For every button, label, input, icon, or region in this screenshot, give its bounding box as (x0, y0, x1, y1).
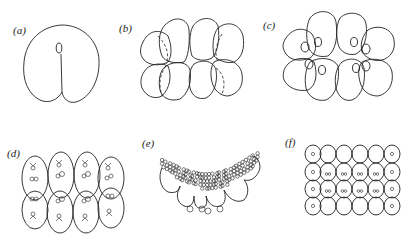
cell (320, 180, 336, 198)
nucleus (360, 190, 363, 193)
small-cell (239, 173, 242, 176)
panel-f-drawing (305, 145, 400, 215)
nucleus (357, 190, 360, 193)
small-cell (206, 183, 209, 186)
small-cell (236, 175, 239, 178)
small-cell (209, 183, 212, 186)
small-cell (256, 152, 259, 155)
small-cell (164, 160, 167, 163)
cell (336, 180, 352, 198)
cell (305, 197, 321, 215)
nucleus (311, 152, 314, 155)
panel-a-drawing (24, 25, 99, 102)
small-cell (212, 176, 215, 179)
small-cell (229, 171, 232, 174)
small-cell (172, 163, 175, 166)
nucleus (360, 173, 363, 176)
nucleus (376, 173, 379, 176)
cell (336, 197, 352, 215)
small-cell (192, 171, 195, 174)
cell (352, 163, 368, 181)
panel-b-drawing (141, 19, 244, 100)
cell (368, 145, 384, 163)
small-cell (169, 165, 172, 168)
cell (368, 197, 384, 215)
nucleus (311, 204, 314, 207)
small-cell (217, 178, 220, 181)
cell (368, 180, 384, 198)
nucleus (328, 173, 331, 176)
small-cell (228, 175, 231, 178)
nucleus (357, 173, 360, 176)
small-cell (211, 186, 214, 189)
small-cell (246, 169, 249, 172)
small-cell (236, 171, 239, 174)
small-cell (241, 160, 244, 163)
nucleus (390, 204, 393, 207)
cell (352, 197, 368, 215)
panel-e-drawing (160, 152, 260, 214)
small-cell (175, 176, 178, 179)
small-cell (206, 180, 209, 183)
small-cell (244, 158, 247, 161)
nucleus (341, 173, 344, 176)
diagram-svg (0, 0, 417, 240)
cell (320, 163, 336, 181)
cell (352, 145, 368, 163)
nucleus (311, 170, 314, 173)
small-cell (179, 174, 182, 177)
cell (384, 197, 400, 215)
small-cell (226, 183, 229, 186)
small-cell (238, 162, 241, 165)
nucleus (344, 190, 347, 193)
small-cell (207, 176, 210, 179)
small-cell (160, 158, 163, 161)
cell (384, 145, 400, 163)
small-cell (251, 154, 254, 157)
small-cells-cap (160, 152, 259, 191)
nucleus (344, 173, 347, 176)
small-cell (182, 168, 185, 171)
cell (368, 163, 384, 181)
small-cell (204, 176, 207, 179)
small-cell (231, 177, 234, 180)
cell (320, 197, 336, 215)
small-cell (207, 172, 210, 175)
small-cell (160, 162, 163, 165)
small-cell (199, 183, 202, 186)
small-cell (162, 166, 165, 169)
small-cell (248, 156, 251, 159)
nucleus (311, 187, 314, 190)
small-cell (202, 183, 205, 186)
nucleus (373, 173, 376, 176)
small-cell (232, 173, 235, 176)
small-cell (232, 169, 235, 172)
cell (305, 145, 321, 163)
small-cell (246, 162, 249, 165)
nucleus (325, 173, 328, 176)
nucleus (328, 190, 331, 193)
nucleus (341, 190, 344, 193)
small-cell (249, 160, 252, 163)
small-cell (201, 172, 204, 175)
small-cell (201, 187, 204, 190)
panel-d-drawing (22, 152, 124, 233)
nucleus (390, 152, 393, 155)
small-cell (202, 180, 205, 183)
cell (384, 163, 400, 181)
cell (352, 180, 368, 198)
small-cell (204, 173, 207, 176)
nucleus (376, 190, 379, 193)
small-cell (246, 165, 249, 168)
nucleus (373, 190, 376, 193)
panel-c-drawing (283, 12, 394, 101)
small-cell (242, 168, 245, 171)
small-cell (239, 169, 242, 172)
cell (305, 163, 321, 181)
small-cell (194, 179, 197, 182)
small-cell (214, 186, 217, 189)
small-cell (177, 170, 180, 173)
small-cell (229, 167, 232, 170)
small-cell (211, 172, 214, 175)
small-cell (242, 171, 245, 174)
